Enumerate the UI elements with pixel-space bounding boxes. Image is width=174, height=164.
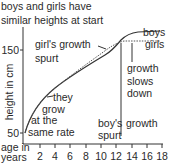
girls-spurt-line2: spurt — [35, 52, 58, 64]
x-tick-label: 2 — [37, 150, 43, 162]
x-tick-label: 16 — [141, 150, 153, 162]
y-axis-label: height in cm — [3, 63, 15, 120]
boys-legend-label: boys — [143, 26, 165, 38]
boys-spurt-line1: boy's — [98, 117, 122, 129]
girls-legend-label: girls — [145, 38, 164, 50]
x-axis-label-line2: years — [1, 151, 27, 163]
y-tick-label-150: 150 — [1, 44, 19, 56]
x-tick-label: 10 — [95, 150, 107, 162]
growth-slows-line1: growth — [127, 62, 159, 74]
x-ticks — [40, 144, 162, 148]
y-tick-label-50: 50 — [7, 127, 19, 139]
x-tick-label: 12 — [110, 150, 122, 162]
same-rate-line1: they — [53, 91, 74, 103]
growth-slows-line2: slows — [127, 75, 153, 87]
growth-slows-line3: down — [127, 87, 152, 99]
boys-spurt-line2: spurt — [98, 129, 121, 141]
top-note-line2: similar heights at start — [1, 14, 103, 26]
girls-spurt-line1: girl's growth — [35, 38, 91, 50]
same-rate-line3: at the — [31, 114, 57, 126]
girls-spurt-pointer — [98, 46, 106, 49]
x-tick-label: 14 — [126, 150, 138, 162]
x-tick-label: 4 — [52, 150, 58, 162]
same-rate-line4: same rate — [28, 126, 75, 138]
top-note-line1: boys and girls have — [1, 0, 92, 12]
growth-chart: boys and girls have similar heights at s… — [0, 0, 174, 164]
x-tick-label: 6 — [67, 150, 73, 162]
x-tick-label: 18 — [156, 150, 168, 162]
boys-spurt-word: growth — [126, 117, 158, 129]
x-tick-label: 8 — [83, 150, 89, 162]
